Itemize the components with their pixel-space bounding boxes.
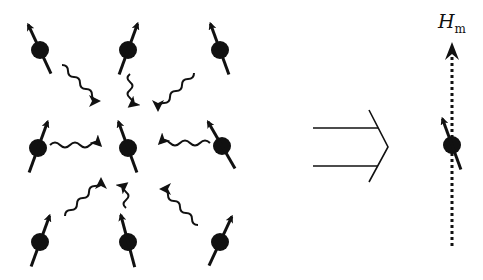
wavy-arrow-w xyxy=(50,143,100,148)
wavy-arrow-s xyxy=(124,184,129,208)
implies-arrow xyxy=(313,110,388,182)
wavy-arrow-n xyxy=(128,74,133,106)
spin xyxy=(31,216,50,267)
wavy-arrow-nw xyxy=(62,65,98,101)
wavy-arrow-sw xyxy=(65,180,101,216)
spin xyxy=(118,122,137,173)
wavy-arrow-e xyxy=(160,141,210,146)
spin xyxy=(119,24,138,75)
spin xyxy=(119,215,137,267)
spin xyxy=(208,122,235,169)
spin xyxy=(209,217,232,266)
wavy-arrow-se xyxy=(162,189,198,225)
spin xyxy=(210,24,229,75)
mean-field-diagram xyxy=(0,0,483,280)
field-label: Hm xyxy=(438,10,466,36)
wavy-arrow-ne xyxy=(158,73,194,109)
spin xyxy=(29,122,48,173)
spin xyxy=(28,25,51,74)
